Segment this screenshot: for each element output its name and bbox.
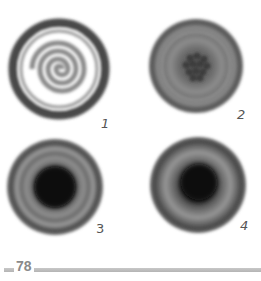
figure-4-core	[181, 164, 217, 200]
dot	[190, 61, 197, 68]
dot	[187, 55, 194, 62]
figure-3-dark-core: 3	[7, 139, 104, 236]
figure-2-dot-cluster: 2	[149, 19, 245, 122]
dot	[200, 69, 207, 76]
page-number: 78	[14, 259, 34, 273]
figure-2-label: 2	[237, 107, 245, 122]
dot	[197, 75, 204, 82]
figure-4-label: 4	[240, 218, 248, 233]
figure-1-label: 1	[101, 116, 109, 131]
dot	[194, 53, 201, 60]
figure-3-core	[35, 167, 75, 207]
figure-3-label: 3	[96, 221, 104, 236]
page-footer-rule	[4, 268, 261, 272]
dot	[204, 63, 211, 70]
dot	[186, 69, 193, 76]
figure-1-spiral: 1	[13, 23, 109, 131]
dot	[183, 62, 190, 69]
book-page: 1 2 3	[0, 0, 261, 281]
figure-4-dark-core: 4	[150, 137, 248, 233]
dot	[193, 68, 200, 75]
figure-1-outer-ring	[13, 23, 105, 115]
illustration-plate: 1 2 3	[0, 0, 261, 281]
dot	[190, 75, 197, 82]
dot	[197, 61, 204, 68]
